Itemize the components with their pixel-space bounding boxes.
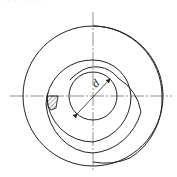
spiral-outer-turn xyxy=(93,26,162,163)
diameter-label: d xyxy=(90,77,102,89)
spiral-spring-diagram: d xyxy=(0,0,177,177)
centerlines xyxy=(10,12,172,172)
